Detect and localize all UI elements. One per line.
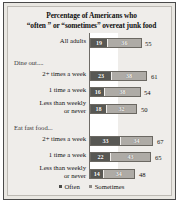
stacked-bar: 14 34 [90, 169, 135, 179]
bar-segment-often: 22 [91, 153, 111, 161]
row-total: 67 [157, 136, 164, 146]
row-label-dine-out-less-than-weekly: Less than weekly or never [8, 99, 86, 114]
legend-swatch-often-icon [59, 185, 62, 188]
bar-value-sometimes: 43 [127, 154, 133, 161]
row-total: 55 [145, 38, 152, 48]
row-total: 50 [141, 104, 148, 114]
legend-label-sometimes: Sometimes [95, 183, 125, 190]
table-row: Less than weekly or never 18 32 50 [8, 103, 175, 115]
bar-segment-often: 19 [91, 39, 108, 47]
row-total: 65 [155, 152, 162, 162]
stacked-bar: 18 32 [90, 104, 137, 114]
table-row: Less than weekly or never 14 34 48 [8, 168, 175, 180]
bar-value-often: 19 [96, 40, 102, 47]
bar-segment-often: 16 [91, 88, 105, 96]
table-row: 1 time a week 16 38 54 [8, 86, 175, 98]
plot-area: All adults 19 36 55 Dine out.... 2+ time… [8, 33, 175, 179]
legend-label-often: Often [65, 183, 80, 190]
bar-segment-sometimes: 32 [107, 105, 136, 113]
bar-value-sometimes: 34 [116, 171, 122, 178]
stacked-bar: 16 38 [90, 87, 141, 97]
chart-title: Percentage of Americans who “often ” or … [10, 11, 173, 30]
chart-title-line-1: Percentage of Americans who [10, 11, 173, 21]
bar-value-often: 14 [94, 171, 100, 178]
bar-segment-sometimes: 34 [104, 170, 135, 178]
stacked-bar: 23 38 [90, 71, 147, 81]
bar-segment-sometimes: 34 [121, 137, 152, 145]
chart-legend: Often Sometimes [8, 183, 175, 190]
bar-value-often: 16 [95, 89, 101, 96]
chart-frame: Percentage of Americans who “often ” or … [3, 2, 176, 200]
row-label-line-2: or never [8, 172, 86, 180]
row-total: 61 [151, 71, 158, 81]
chart-panel: Percentage of Americans who “often ” or … [7, 6, 172, 196]
row-label-fast-food-2-plus: 2+ times a week [8, 135, 86, 143]
bar-segment-often: 33 [91, 137, 121, 145]
table-row: 2+ times a week 33 34 67 [8, 135, 175, 147]
bar-segment-often: 18 [91, 105, 107, 113]
section-header-dine-out: Dine out.... [14, 59, 44, 66]
bar-value-often: 22 [97, 154, 103, 161]
row-label-all-adults: All adults [8, 37, 86, 45]
stacked-bar: 19 36 [90, 38, 142, 48]
table-row: 1 time a week 22 43 65 [8, 151, 175, 163]
bar-segment-sometimes: 43 [111, 153, 150, 161]
row-total: 54 [144, 87, 151, 97]
bar-value-sometimes: 38 [126, 73, 132, 80]
row-label-line-2: or never [8, 107, 86, 115]
bar-value-sometimes: 38 [120, 89, 126, 96]
bar-segment-often: 23 [91, 72, 112, 80]
chart-title-line-2: “often ” or “sometimes” overeat junk foo… [10, 21, 173, 31]
legend-item-sometimes: Sometimes [89, 183, 125, 190]
stacked-bar: 22 43 [90, 152, 151, 162]
bar-value-often: 18 [96, 106, 102, 113]
table-row: 2+ times a week 23 38 61 [8, 70, 175, 82]
bar-value-sometimes: 34 [133, 138, 139, 145]
bar-segment-sometimes: 38 [112, 72, 146, 80]
legend-swatch-sometimes-icon [89, 185, 92, 188]
row-label-line-1: Less than weekly [8, 99, 86, 107]
row-label-fast-food-1-time: 1 time a week [8, 151, 86, 159]
row-label-dine-out-2-plus: 2+ times a week [8, 70, 86, 78]
stacked-bar: 33 34 [90, 136, 153, 146]
bar-value-sometimes: 32 [119, 106, 125, 113]
bar-segment-sometimes: 36 [108, 39, 141, 47]
row-label-line-1: Less than weekly [8, 164, 86, 172]
row-label-dine-out-1-time: 1 time a week [8, 86, 86, 94]
table-row: All adults 19 36 55 [8, 37, 175, 49]
bar-segment-often: 14 [91, 170, 104, 178]
legend-item-often: Often [59, 183, 80, 190]
row-label-fast-food-less-than-weekly: Less than weekly or never [8, 164, 86, 179]
bar-value-often: 33 [102, 138, 108, 145]
bar-value-sometimes: 36 [121, 40, 127, 47]
section-header-eat-fast-food: Eat fast food... [14, 124, 53, 131]
bar-value-often: 23 [98, 73, 104, 80]
bar-segment-sometimes: 38 [105, 88, 139, 96]
row-total: 48 [139, 169, 146, 179]
